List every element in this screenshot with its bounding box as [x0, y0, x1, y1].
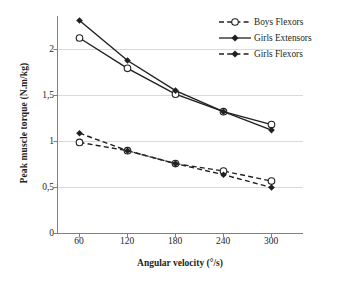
legend-marker-filled-diamond-dashed-icon: [218, 47, 252, 61]
gridlines: [57, 50, 303, 188]
legend-item-girls-flexors: Girls Flexors: [218, 46, 338, 62]
chart-figure: Peak muscle torque (N.m/kg) 0 0,5 1 1,5 …: [0, 0, 340, 281]
legend-item-boys-flexors: Boys Flexors: [218, 14, 338, 30]
legend-label: Girls Flexors: [252, 49, 303, 59]
legend-marker-open-circle-dashed-icon: [218, 15, 252, 29]
x-axis-ticks: [80, 234, 272, 238]
series-girls-flexors: [76, 130, 275, 191]
legend-label: Boys Flexors: [252, 17, 303, 27]
legend-item-girls-extensors: Girls Extensors: [218, 30, 338, 46]
legend-marker-filled-diamond-solid-icon: [218, 31, 252, 45]
legend-label: Girls Extensors: [252, 33, 312, 43]
chart-legend: Boys Flexors Girls Extensors Girls Flexo…: [218, 14, 338, 62]
y-axis-ticks: [54, 50, 58, 234]
